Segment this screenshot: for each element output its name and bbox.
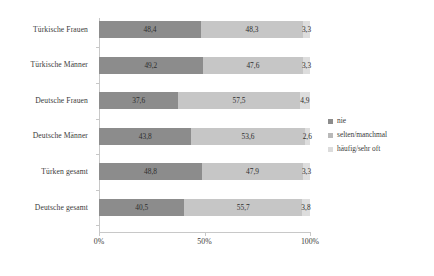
bar-value-label: 49,2 — [137, 57, 165, 74]
y-axis-category-label: Deutsche Männer — [0, 131, 88, 140]
bar-value-label: 3,3 — [293, 57, 321, 74]
x-axis-tick-label: 50% — [197, 236, 211, 247]
legend-item[interactable]: nie — [327, 114, 431, 128]
legend-item-label: nie — [337, 116, 346, 125]
bar-value-label: 48,8 — [136, 163, 164, 180]
y-axis-category-labels: Türkische FrauenTürkische MännerDeutsche… — [0, 18, 92, 232]
stacked-bar-chart: Türkische FrauenTürkische MännerDeutsche… — [0, 0, 434, 276]
bar-value-label: 3,3 — [293, 21, 321, 38]
bar-value-label: 3,3 — [293, 163, 321, 180]
x-axis-tick-label: 100% — [301, 236, 319, 247]
bar-row: 37,657,54,9 — [99, 92, 310, 109]
plot-area: 48,448,33,349,247,63,337,657,54,943,853,… — [99, 18, 310, 232]
bar-value-label: 53,6 — [234, 128, 262, 145]
bar-value-label: 3,8 — [292, 199, 320, 216]
chart-legend: nieselten/manchmalhäufig/sehr oft — [327, 114, 431, 156]
y-axis-tick — [96, 119, 99, 120]
bar-value-label: 47,6 — [239, 57, 267, 74]
y-axis-tick — [96, 83, 99, 84]
bar-value-label: 40,5 — [128, 199, 156, 216]
bar-row: 40,555,73,8 — [99, 199, 310, 216]
legend-item-label: selten/manchmal — [337, 130, 387, 139]
y-axis-category-label: Deutsche gesamt — [0, 203, 88, 212]
legend-item[interactable]: häufig/sehr oft — [327, 142, 431, 156]
bar-value-label: 2,6 — [293, 128, 321, 145]
bar-value-label: 47,9 — [239, 163, 267, 180]
y-axis-tick — [96, 190, 99, 191]
legend-swatch-icon — [328, 119, 333, 124]
y-axis-category-label: Türkische Frauen — [0, 25, 88, 34]
y-axis-category-label: Türken gesamt — [0, 167, 88, 176]
y-axis-tick — [96, 47, 99, 48]
bar-value-label: 4,9 — [291, 92, 319, 109]
bar-value-label: 48,3 — [238, 21, 266, 38]
legend-item-label: häufig/sehr oft — [337, 144, 380, 153]
x-axis-tick-labels: 0%50%100% — [99, 236, 310, 250]
legend-swatch-icon — [328, 147, 333, 152]
bar-value-label: 43,8 — [131, 128, 159, 145]
bar-row: 48,847,93,3 — [99, 163, 310, 180]
bar-value-label: 48,4 — [136, 21, 164, 38]
y-axis-tick — [96, 225, 99, 226]
bar-value-label: 55,7 — [229, 199, 257, 216]
y-axis-category-label: Deutsche Frauen — [0, 96, 88, 105]
bar-row: 48,448,33,3 — [99, 21, 310, 38]
x-axis-tick-label: 0% — [94, 236, 104, 247]
legend-item[interactable]: selten/manchmal — [327, 128, 431, 142]
legend-swatch-icon — [328, 133, 333, 138]
bar-row: 43,853,62,6 — [99, 128, 310, 145]
bar-value-label: 57,5 — [225, 92, 253, 109]
bar-row: 49,247,63,3 — [99, 57, 310, 74]
y-axis-tick — [96, 154, 99, 155]
bar-value-label: 37,6 — [125, 92, 153, 109]
y-axis-category-label: Türkische Männer — [0, 60, 88, 69]
